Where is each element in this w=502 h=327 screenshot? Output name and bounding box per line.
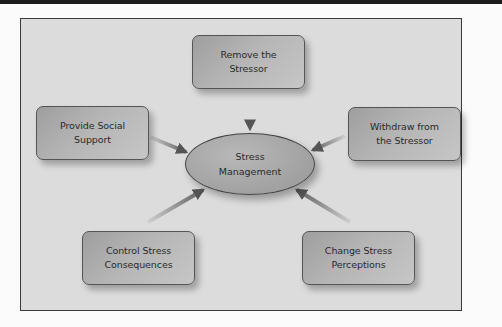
node-label: Control Stress Consequences bbox=[105, 244, 173, 272]
center-stress-management: Stress Management bbox=[185, 133, 315, 195]
arrow-social bbox=[150, 137, 186, 152]
arrow-change bbox=[297, 190, 350, 222]
node-provide-social-support: Provide Social Support bbox=[36, 106, 149, 160]
node-change-stress-perceptions: Change Stress Perceptions bbox=[302, 231, 415, 285]
node-remove-the-stressor: Remove the Stressor bbox=[192, 35, 305, 89]
node-label: Provide Social Support bbox=[60, 119, 125, 147]
node-label: Remove the Stressor bbox=[220, 48, 276, 76]
center-label: Stress Management bbox=[219, 149, 282, 179]
arrow-withdraw bbox=[313, 136, 345, 150]
node-label: Change Stress Perceptions bbox=[325, 244, 392, 272]
node-label: Withdraw from the Stressor bbox=[370, 120, 439, 148]
arrow-control bbox=[148, 190, 203, 222]
node-withdraw-from-the-stressor: Withdraw from the Stressor bbox=[348, 107, 461, 161]
node-control-stress-consequences: Control Stress Consequences bbox=[82, 231, 195, 285]
